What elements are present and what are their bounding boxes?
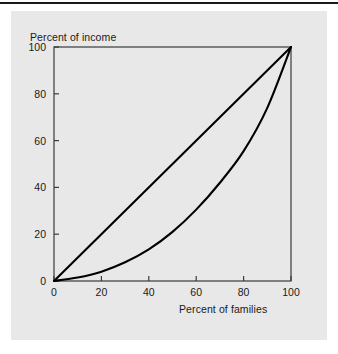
y-tick-0: 0 xyxy=(11,275,46,287)
y-tick-100: 100 xyxy=(11,41,46,53)
x-tick-80: 80 xyxy=(238,286,250,298)
y-tick-60: 60 xyxy=(11,135,46,147)
lorenz-curve-chart: Percent of income Percent of families 02… xyxy=(11,11,327,340)
x-tick-100: 100 xyxy=(282,286,300,298)
y-tick-80: 80 xyxy=(11,88,46,100)
equality-line xyxy=(54,47,291,281)
y-axis-ticks xyxy=(54,47,59,281)
y-tick-40: 40 xyxy=(11,181,46,193)
y-tick-20: 20 xyxy=(11,228,46,240)
x-axis-ticks xyxy=(54,276,291,281)
x-tick-0: 0 xyxy=(51,286,57,298)
x-tick-40: 40 xyxy=(143,286,155,298)
figure-panel: Percent of income Percent of families 02… xyxy=(11,11,327,340)
x-axis-title: Percent of families xyxy=(179,303,267,315)
chart-plot-svg xyxy=(11,11,327,340)
top-divider-rule xyxy=(0,2,338,4)
x-tick-20: 20 xyxy=(96,286,108,298)
series-layer xyxy=(54,47,291,281)
x-tick-60: 60 xyxy=(190,286,202,298)
